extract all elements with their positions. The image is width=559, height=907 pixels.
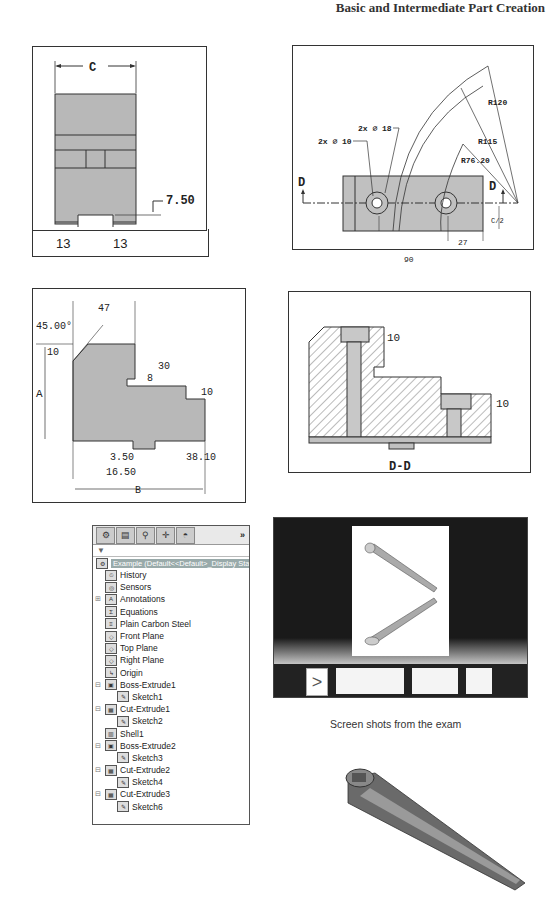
tree-item-label: Sensors xyxy=(120,582,151,592)
sketch-icon: ✎ xyxy=(117,716,129,727)
tree-item-label: Cut-Extrude2 xyxy=(120,765,170,775)
tree-item-label: Shell1 xyxy=(120,729,144,739)
sensors-icon: ◎ xyxy=(105,582,117,593)
tree-item[interactable]: ✎Sketch3 xyxy=(93,752,249,764)
tree-item-label: Equations xyxy=(120,607,158,617)
drawing-section-view: 10 10 D-D xyxy=(288,291,531,473)
tree-item[interactable]: ◎Sensors xyxy=(93,581,249,593)
tree-root[interactable]: ⚙ Example (Default<<Default>_Display Sta… xyxy=(93,557,249,569)
more-tabs-button[interactable]: » xyxy=(240,530,245,540)
sketch-icon: ✎ xyxy=(117,801,129,812)
section-label-dd: D-D xyxy=(389,460,411,472)
thumbnail-3[interactable] xyxy=(412,668,458,694)
material-icon: ≡ xyxy=(105,618,117,629)
tree-item-label: Boss-Extrude1 xyxy=(120,680,176,690)
tree-item-label: Boss-Extrude2 xyxy=(120,741,176,751)
tree-item-label: Front Plane xyxy=(120,631,164,641)
equations-icon: Σ xyxy=(105,606,117,617)
tree-item[interactable]: ✎Sketch2 xyxy=(93,715,249,727)
dim-r120: R120 xyxy=(488,98,507,107)
tree-item[interactable]: ◇Top Plane xyxy=(93,642,249,654)
dim-7-50: 7.50 xyxy=(166,194,195,208)
boss-extrude-icon: ▣ xyxy=(105,679,117,690)
dim-30: 30 xyxy=(158,361,170,372)
tree-item[interactable]: ⏲History xyxy=(93,569,249,581)
section-label-right: D xyxy=(489,180,496,194)
dim-10-counterbore-1: 10 xyxy=(387,332,400,344)
dim-10-counterbore-2: 10 xyxy=(496,398,509,410)
part-icon: ⚙ xyxy=(96,558,108,569)
tree-item[interactable]: ⊟▣Boss-Extrude2 xyxy=(93,740,249,752)
thumbnail-strip: > xyxy=(274,664,527,697)
filter-icon[interactable]: ▼ xyxy=(93,545,249,557)
tree-item-label: Sketch1 xyxy=(132,692,163,702)
dim-38-10: 38.10 xyxy=(186,452,216,463)
tree-item[interactable]: ⊟▦Cut-Extrude3 xyxy=(93,788,249,800)
plane-icon: ◇ xyxy=(105,643,117,654)
collapse-icon[interactable]: ⊟ xyxy=(95,766,101,774)
annotations-icon: A xyxy=(105,594,117,605)
dim-r76-20: R76.20 xyxy=(461,156,490,165)
tree-root-label: Example (Default<<Default>_Display State… xyxy=(111,559,249,568)
dim-10-top: 10 xyxy=(47,347,59,358)
dim-10-step: 10 xyxy=(201,387,213,398)
collapse-icon[interactable]: ⊟ xyxy=(95,681,101,689)
dim-b: B xyxy=(135,485,141,496)
tree-item[interactable]: ⊟▦Cut-Extrude2 xyxy=(93,764,249,776)
display-manager-tab[interactable]: ◓ xyxy=(176,527,195,544)
collapse-icon[interactable]: ⊟ xyxy=(95,742,101,750)
tree-item-label: Plain Carbon Steel xyxy=(120,619,191,629)
tree-item-label: Sketch3 xyxy=(132,753,163,763)
feature-manager-tabs: ⚙ ▤ ⚲ ✛ ◓ » xyxy=(93,526,249,545)
dim-90: 90 xyxy=(404,255,414,264)
dim-r115: R115 xyxy=(478,137,497,146)
history-icon: ⏲ xyxy=(105,570,117,581)
cut-extrude-icon: ▦ xyxy=(105,765,117,776)
drawing-side-view: 47 45.00° 10 A 30 8 10 3.50 38.10 16.50 … xyxy=(32,288,246,503)
tree-item[interactable]: ⊞AAnnotations xyxy=(93,593,249,605)
dimxpert-manager-tab[interactable]: ✛ xyxy=(156,527,175,544)
tree-item[interactable]: ↳Origin xyxy=(93,667,249,679)
exam-viewer: > xyxy=(273,517,528,698)
dim-16-50: 16.50 xyxy=(106,467,136,478)
exam-caption: Screen shots from the exam xyxy=(330,718,461,730)
tree-item[interactable]: ◇Front Plane xyxy=(93,630,249,642)
tree-item[interactable]: ✎Sketch6 xyxy=(93,801,249,813)
property-manager-tab[interactable]: ▤ xyxy=(116,527,135,544)
configuration-manager-tab[interactable]: ⚲ xyxy=(136,527,155,544)
tree-item[interactable]: ⊟▦Cut-Extrude1 xyxy=(93,703,249,715)
cut-extrude-icon: ▦ xyxy=(105,704,117,715)
tree-item[interactable]: ◇Right Plane xyxy=(93,654,249,666)
sketch-icon: ✎ xyxy=(117,777,129,788)
thumbnail-1[interactable]: > xyxy=(306,668,328,696)
dim-3-50: 3.50 xyxy=(110,452,134,463)
tree-item[interactable]: ⊟▣Boss-Extrude1 xyxy=(93,679,249,691)
sketch-icon: ✎ xyxy=(117,752,129,763)
tree-item-label: History xyxy=(120,570,146,580)
tree-item[interactable]: ✎Sketch4 xyxy=(93,776,249,788)
dim-c: C xyxy=(89,61,96,75)
dim-a: A xyxy=(36,388,43,400)
dim-8: 8 xyxy=(147,373,153,384)
tree-item-label: Sketch4 xyxy=(132,777,163,787)
feature-tree-list: ⏲History◎Sensors⊞AAnnotationsΣEquations≡… xyxy=(93,569,249,813)
cut-extrude-icon: ▦ xyxy=(105,789,117,800)
collapse-icon[interactable]: ⊟ xyxy=(95,790,101,798)
dim-27: 27 xyxy=(458,238,468,247)
expand-icon[interactable]: ⊞ xyxy=(95,595,101,603)
thumbnail-2[interactable] xyxy=(336,668,404,694)
shell-icon: ▥ xyxy=(105,728,117,739)
boss-extrude-icon: ▣ xyxy=(105,740,117,751)
section-label-left: D xyxy=(298,176,305,190)
tree-item[interactable]: ≡Plain Carbon Steel xyxy=(93,618,249,630)
tree-item-label: Cut-Extrude3 xyxy=(120,789,170,799)
tree-item[interactable]: ▥Shell1 xyxy=(93,727,249,739)
dim-45-deg: 45.00° xyxy=(36,321,72,332)
tree-item[interactable]: ✎Sketch1 xyxy=(93,691,249,703)
feature-tree-tab[interactable]: ⚙ xyxy=(96,527,115,544)
collapse-icon[interactable]: ⊟ xyxy=(95,705,101,713)
drawing-top-view: R120 R115 R76.20 2x ⌀ 18 2x ⌀ 10 D D C/2… xyxy=(292,45,534,250)
thumbnail-4[interactable] xyxy=(466,668,492,694)
plane-icon: ◇ xyxy=(105,655,117,666)
tree-item[interactable]: ΣEquations xyxy=(93,606,249,618)
